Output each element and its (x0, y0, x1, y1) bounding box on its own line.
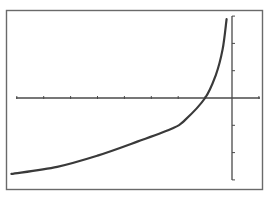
chart-canvas (0, 0, 266, 203)
figure-caption (0, 193, 266, 203)
